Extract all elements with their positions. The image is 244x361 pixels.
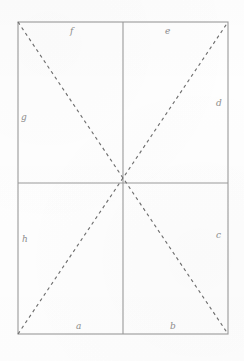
- label-c: c: [216, 231, 221, 240]
- geometric-diagram: [0, 0, 244, 361]
- figure-root: f e g d h c a b: [0, 0, 244, 361]
- label-a: a: [76, 322, 81, 331]
- label-d: d: [216, 99, 222, 108]
- label-g: g: [21, 113, 27, 122]
- label-e: e: [165, 27, 170, 36]
- label-f: f: [70, 27, 73, 36]
- label-h: h: [22, 235, 28, 244]
- label-b: b: [170, 322, 176, 331]
